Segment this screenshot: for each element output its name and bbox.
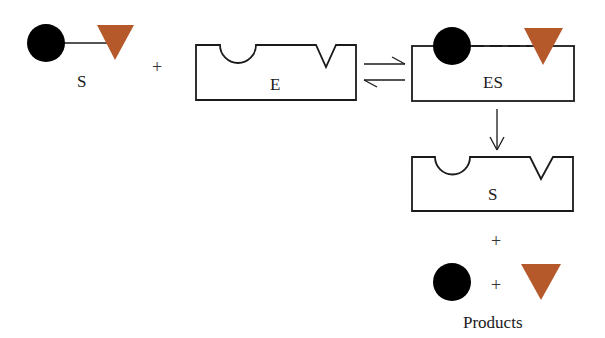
complex-label: ES: [483, 74, 503, 91]
equilibrium-arrows: [364, 57, 405, 87]
enzyme-after-label: S: [488, 186, 497, 203]
plus-operator-1: +: [152, 58, 162, 76]
complex-circle-icon: [433, 27, 471, 65]
substrate-circle-icon: [27, 24, 65, 62]
substrate-molecule: [27, 24, 134, 62]
product-circle-icon: [433, 263, 471, 301]
diagram-canvas: [0, 0, 605, 338]
plus-operator-2: +: [491, 232, 501, 250]
substrate-label: S: [77, 73, 86, 90]
products-label: Products: [463, 314, 523, 331]
plus-operator-3: +: [491, 276, 501, 294]
enzyme-label: E: [270, 76, 280, 93]
forward-arrow: [490, 109, 504, 150]
product-triangle-icon: [521, 264, 561, 300]
